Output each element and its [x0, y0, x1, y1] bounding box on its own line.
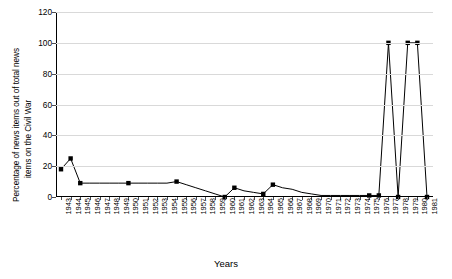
gridline — [56, 43, 433, 44]
plot-area — [56, 12, 433, 197]
x-tick-label: 1970 — [324, 198, 333, 215]
y-tick-mark — [52, 43, 56, 44]
gridline — [56, 166, 433, 167]
x-tick-label: 1977 — [391, 198, 400, 215]
x-tick-label: 1962 — [247, 198, 256, 215]
x-tick-label: 1964 — [266, 198, 275, 215]
x-tick-label: 1952 — [151, 198, 160, 215]
x-tick-label: 1975 — [372, 198, 381, 215]
gridline — [56, 74, 433, 75]
x-tick-label: 1943 — [64, 198, 73, 215]
x-tick-label: 1958 — [208, 198, 217, 215]
data-point-marker — [68, 156, 72, 160]
x-tick-label: 1957 — [199, 198, 208, 215]
data-point-marker — [232, 186, 236, 190]
y-tick-label: 120 — [26, 8, 52, 16]
x-tick-label: 1947 — [103, 198, 112, 215]
x-tick-label: 1976 — [382, 198, 391, 215]
x-tick-label: 1972 — [343, 198, 352, 215]
x-tick-label: 1949 — [122, 198, 131, 215]
y-tick-mark — [52, 12, 56, 13]
gridline — [56, 12, 433, 13]
x-tick-label: 1950 — [131, 198, 140, 215]
series-path — [61, 43, 427, 197]
x-tick-label: 1954 — [170, 198, 179, 215]
x-tick-label: 1951 — [141, 198, 150, 215]
y-tick-mark — [52, 135, 56, 136]
y-tick-label: 40 — [26, 131, 52, 139]
x-tick-label: 1978 — [401, 198, 410, 215]
x-tick-label: 1980 — [420, 198, 429, 215]
y-axis-title-line-1: Percentage of news items out of total ne… — [12, 48, 21, 202]
x-tick-label: 1973 — [353, 198, 362, 215]
y-tick-label: 20 — [26, 162, 52, 170]
y-tick-mark — [52, 105, 56, 106]
y-tick-label: 60 — [26, 101, 52, 109]
x-tick-label: 1948 — [112, 198, 121, 215]
gridline — [56, 105, 433, 106]
x-tick-label: 1969 — [314, 198, 323, 215]
x-tick-label: 1944 — [74, 198, 83, 215]
x-tick-label: 1956 — [189, 198, 198, 215]
x-tick-label: 1960 — [228, 198, 237, 215]
y-tick-label: 0 — [26, 193, 52, 201]
y-axis-tick-labels: 020406080100120 — [26, 0, 52, 210]
y-tick-label: 80 — [26, 70, 52, 78]
x-axis-title: Years — [0, 258, 452, 269]
data-point-marker — [78, 181, 82, 185]
data-point-marker — [59, 167, 63, 171]
y-tick-label: 100 — [26, 39, 52, 47]
x-tick-label: 1963 — [257, 198, 266, 215]
x-tick-label: 1959 — [218, 198, 227, 215]
x-tick-label: 1967 — [295, 198, 304, 215]
x-tick-label: 1965 — [276, 198, 285, 215]
x-tick-label: 1971 — [334, 198, 343, 215]
x-tick-label: 1953 — [160, 198, 169, 215]
x-tick-label: 1946 — [93, 198, 102, 215]
x-tick-label: 1966 — [286, 198, 295, 215]
x-tick-label: 1955 — [180, 198, 189, 215]
y-tick-mark — [52, 74, 56, 75]
data-point-marker — [261, 192, 265, 196]
x-tick-label: 1968 — [305, 198, 314, 215]
x-tick-label: 1981 — [430, 198, 439, 215]
x-tick-label: 1979 — [411, 198, 420, 215]
x-tick-label: 1945 — [83, 198, 92, 215]
x-tick-label: 1974 — [363, 198, 372, 215]
x-tick-label: 1961 — [237, 198, 246, 215]
data-point-marker — [174, 179, 178, 183]
data-point-marker — [271, 182, 275, 186]
data-point-marker — [126, 181, 130, 185]
gridline — [56, 135, 433, 136]
chart-container: Percentage of news items out of total ne… — [0, 0, 452, 279]
y-tick-mark — [52, 166, 56, 167]
x-axis-tick-labels: 1943194419451946194719481949195019511952… — [56, 198, 436, 244]
